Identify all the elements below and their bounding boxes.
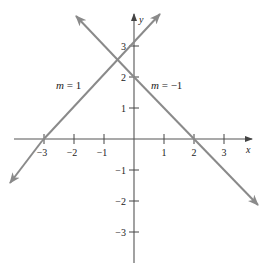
x-tick-label: 1 — [162, 147, 167, 158]
y-tick-label: 2 — [121, 72, 126, 83]
y-axis-label: y — [138, 14, 144, 25]
line-slope-negative-one — [134, 77, 258, 205]
y-tick-label: −2 — [115, 196, 126, 207]
x-tick-label: −2 — [67, 147, 78, 158]
y-tick-label: 1 — [121, 103, 126, 114]
y-tick-label: −1 — [115, 165, 126, 176]
line-slope-positive-one — [42, 14, 160, 141]
x-tick-label: 2 — [192, 147, 197, 158]
label-m-equals-1: m = 1 — [56, 79, 81, 91]
x-tick-label: −3 — [37, 147, 48, 158]
x-tick-label: 3 — [222, 147, 227, 158]
x-tick-label: −1 — [97, 147, 108, 158]
line-slope-positive-one — [10, 141, 42, 183]
y-tick-label: −3 — [115, 227, 126, 238]
label-m-equals-neg1: m = −1 — [151, 79, 182, 91]
x-axis-label: x — [245, 144, 251, 155]
coordinate-plane: −3 −2 −1 1 2 3 3 2 1 −1 −2 −3 y x m = 1 … — [0, 0, 269, 278]
